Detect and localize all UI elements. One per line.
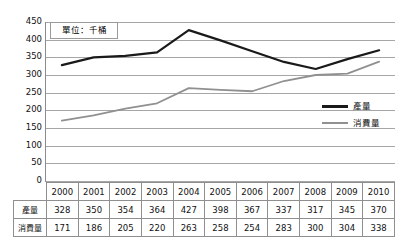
table-cell: 263 bbox=[173, 219, 205, 237]
unit-annotation: 單位：千桶 bbox=[50, 22, 118, 39]
table-header-cell: 2010 bbox=[363, 183, 395, 201]
table-corner-cell bbox=[14, 183, 47, 201]
table-header-cell: 2007 bbox=[268, 183, 300, 201]
table-cell: 254 bbox=[236, 219, 268, 237]
table-cell: 317 bbox=[300, 201, 332, 219]
table-header-row: 2000200120022003200420052006200720082009… bbox=[14, 183, 395, 201]
table-cell: 300 bbox=[300, 219, 332, 237]
table-row-label: 產量 bbox=[14, 201, 47, 219]
chart-page: 450400350300250200150100500 單位：千桶 產量 消費量… bbox=[0, 0, 407, 245]
table-cell: 354 bbox=[110, 201, 142, 219]
table-cell: 350 bbox=[78, 201, 110, 219]
table-cell: 370 bbox=[363, 201, 395, 219]
table-cell: 364 bbox=[141, 201, 173, 219]
line-chart: 450400350300250200150100500 單位：千桶 產量 消費量 bbox=[0, 0, 407, 185]
table-cell: 338 bbox=[363, 219, 395, 237]
data-table: 2000200120022003200420052006200720082009… bbox=[13, 182, 395, 237]
table-cell: 258 bbox=[205, 219, 237, 237]
table-cell: 220 bbox=[141, 219, 173, 237]
table-cell: 171 bbox=[47, 219, 79, 237]
table-header-cell: 2002 bbox=[110, 183, 142, 201]
legend-label-consumption: 消費量 bbox=[353, 115, 380, 132]
table-cell: 304 bbox=[331, 219, 363, 237]
table-cell: 337 bbox=[268, 201, 300, 219]
table-cell: 367 bbox=[236, 201, 268, 219]
table-cell: 398 bbox=[205, 201, 237, 219]
table-cell: 427 bbox=[173, 201, 205, 219]
table-cell: 345 bbox=[331, 201, 363, 219]
table-row-label: 消費量 bbox=[14, 219, 47, 237]
table-header-cell: 2004 bbox=[173, 183, 205, 201]
table-cell: 328 bbox=[47, 201, 79, 219]
table-row: 消費量171186205220263258254283300304338 bbox=[14, 219, 395, 237]
legend-item-consumption: 消費量 bbox=[322, 115, 402, 132]
legend-label-production: 產量 bbox=[353, 98, 371, 115]
chart-legend: 產量 消費量 bbox=[322, 98, 402, 132]
table-row: 產量328350354364427398367337317345370 bbox=[14, 201, 395, 219]
table-header-cell: 2006 bbox=[236, 183, 268, 201]
table-header-cell: 2001 bbox=[78, 183, 110, 201]
table-cell: 283 bbox=[268, 219, 300, 237]
table-cell: 186 bbox=[78, 219, 110, 237]
table-header-cell: 2005 bbox=[205, 183, 237, 201]
legend-swatch-production-icon bbox=[322, 105, 348, 108]
table-header-cell: 2003 bbox=[141, 183, 173, 201]
data-table-wrapper: 2000200120022003200420052006200720082009… bbox=[13, 182, 395, 237]
legend-swatch-consumption-icon bbox=[322, 122, 348, 124]
table-header-cell: 2009 bbox=[331, 183, 363, 201]
table-header-cell: 2008 bbox=[300, 183, 332, 201]
table-header-cell: 2000 bbox=[47, 183, 79, 201]
table-cell: 205 bbox=[110, 219, 142, 237]
legend-item-production: 產量 bbox=[322, 98, 402, 115]
